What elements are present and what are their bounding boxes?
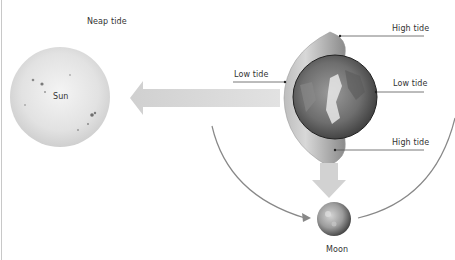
diagram-title: Neap tide — [87, 17, 127, 26]
low-tide-right-label: Low tide — [393, 79, 427, 88]
moon-gravity-arrow — [312, 163, 346, 198]
high-tide-bottom-label: High tide — [392, 138, 429, 147]
tide-diagram — [0, 0, 455, 260]
high-tide-top-label: High tide — [392, 24, 429, 33]
sun-label: Sun — [53, 92, 69, 101]
orbit-arc-right — [358, 118, 455, 218]
orbit-arc-left — [212, 126, 311, 222]
earth — [284, 32, 377, 166]
moon-label: Moon — [326, 245, 348, 254]
moon — [317, 202, 351, 236]
low-tide-left-label: Low tide — [234, 70, 268, 79]
sun-gravity-arrow — [130, 81, 280, 115]
